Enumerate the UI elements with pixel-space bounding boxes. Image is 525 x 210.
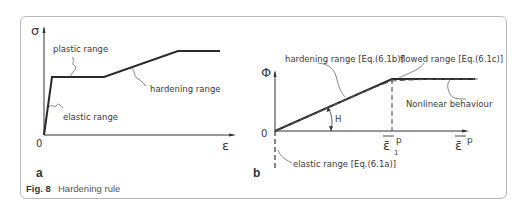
hardening-leader bbox=[318, 63, 345, 97]
plastic-leader bbox=[70, 57, 76, 77]
flowed-leader bbox=[399, 63, 424, 78]
plastic-range-label: plastic range bbox=[53, 44, 108, 54]
y-axis-arrow-icon bbox=[274, 70, 277, 77]
x-axis-symbol: ε̄ p bbox=[455, 135, 473, 153]
x-axis-arrow-icon bbox=[229, 134, 236, 137]
svg-text:1: 1 bbox=[394, 149, 398, 157]
y-axis-symbol: σ bbox=[31, 23, 39, 38]
nonlinear-leader bbox=[448, 80, 466, 99]
epsilon1-tick-label: ε̄ 1 p bbox=[383, 135, 402, 157]
figure-caption: Fig. 8 Hardening rule bbox=[26, 183, 120, 194]
elastic-leader bbox=[278, 150, 292, 163]
panel-b: Φ 0 H hardening range [Eq.(6.1b)] flowed… bbox=[253, 54, 503, 180]
nonlinear-behaviour-label: Nonlinear behaviour bbox=[406, 99, 493, 109]
svg-text:ε̄: ε̄ bbox=[455, 138, 462, 153]
slope-H-label: H bbox=[335, 114, 341, 124]
panel-b-label: b bbox=[253, 166, 260, 180]
elastic-range-label: elastic range bbox=[63, 112, 118, 122]
hardening-range-label: hardening range bbox=[150, 84, 221, 94]
flowed-range-label: flowed range [Eq.(6.1c)] bbox=[400, 54, 503, 64]
origin-label: 0 bbox=[261, 128, 267, 139]
panel-a-label: a bbox=[36, 166, 43, 180]
hardening-leader bbox=[132, 68, 146, 86]
figure-canvas: σ 0 ε plastic range hardening range elas… bbox=[0, 0, 525, 210]
y-axis-symbol: Φ bbox=[261, 65, 271, 80]
svg-text:p: p bbox=[467, 135, 473, 145]
hardening-range-label: hardening range [Eq.(6.1b)] bbox=[285, 54, 404, 64]
svg-text:ε̄: ε̄ bbox=[383, 138, 390, 153]
x-axis-symbol: ε bbox=[222, 138, 229, 153]
svg-text:p: p bbox=[396, 135, 402, 145]
x-axis-arrow-icon bbox=[462, 130, 469, 133]
arc-arrow-bottom-icon bbox=[329, 126, 333, 131]
origin-label: 0 bbox=[36, 138, 42, 149]
caption-text: Hardening rule bbox=[58, 183, 120, 194]
caption-figure-number: Fig. 8 bbox=[26, 183, 51, 194]
elastic-range-label: elastic range [Eq.(6.1a)] bbox=[293, 159, 396, 169]
elastic-leader bbox=[49, 104, 63, 108]
y-axis-arrow-icon bbox=[43, 26, 46, 33]
panel-a: σ 0 ε plastic range hardening range elas… bbox=[31, 23, 236, 180]
